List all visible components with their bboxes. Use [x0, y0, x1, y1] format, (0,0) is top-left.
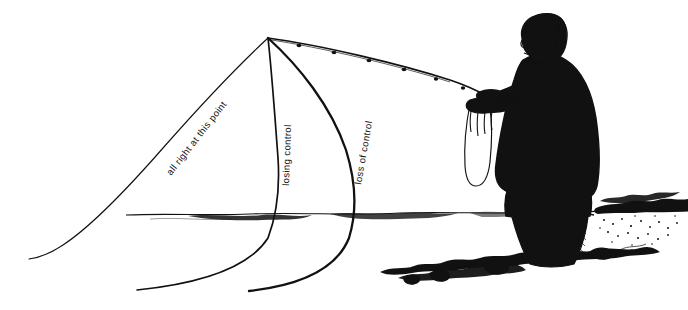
- illustration-canvas: all right at this point losing control l…: [0, 0, 688, 310]
- label-losing-control: losing control: [280, 124, 293, 186]
- fly-casting-diagram: all right at this point losing control l…: [0, 0, 688, 310]
